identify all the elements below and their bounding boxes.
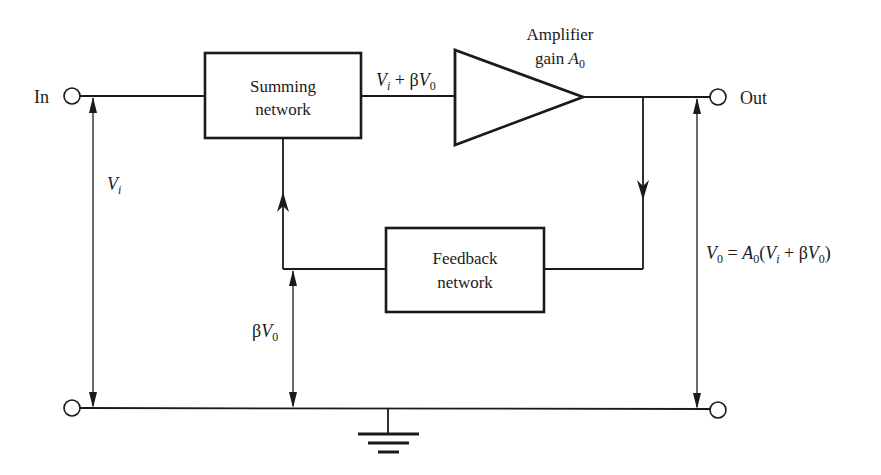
vi-arrow-bottom-icon (89, 392, 97, 408)
output-ground-terminal (710, 402, 726, 418)
summing-network-label-line1: Summing (250, 77, 317, 96)
output-equation-label: V0 = A0(Vi + βV0) (706, 243, 831, 266)
feedback-network-label-line1: Feedback (432, 249, 498, 268)
beta-vo-arrow-top-icon (289, 270, 297, 286)
input-ground-terminal (64, 400, 80, 416)
feedback-network-label-line2: network (437, 273, 493, 292)
beta-vo-label: βV0 (252, 321, 278, 344)
feedback-network-block (386, 228, 544, 312)
ground-rail (80, 408, 710, 409)
input-label: In (34, 87, 49, 107)
amplifier-label-line2: gain A0 (535, 49, 585, 71)
amplifier-label-line1: Amplifier (526, 25, 593, 44)
vi-arrow-top-icon (89, 97, 97, 113)
feedback-amplifier-diagram: In Summing network Vi + βV0 Amplifier ga… (0, 0, 881, 475)
beta-vo-arrow-bottom-icon (289, 392, 297, 408)
input-terminal (64, 88, 80, 104)
summing-network-label-line2: network (255, 100, 311, 119)
vo-arrow-bottom-icon (693, 393, 701, 409)
output-label: Out (740, 88, 767, 108)
vo-arrow-top-icon (693, 98, 701, 114)
ground-icon (358, 408, 419, 452)
summing-output-label: Vi + βV0 (376, 70, 436, 93)
vi-label: Vi (107, 174, 121, 197)
output-terminal (710, 89, 726, 105)
